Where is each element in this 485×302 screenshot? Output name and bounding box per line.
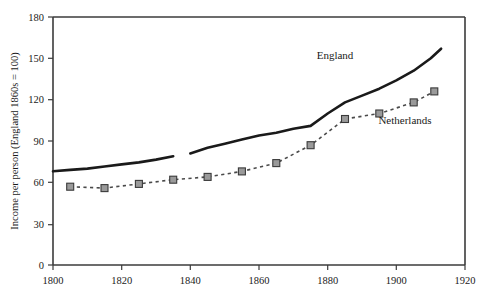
chart-background — [0, 0, 485, 302]
netherlands-marker-1845 — [204, 173, 211, 180]
netherlands-marker-1875 — [307, 142, 314, 149]
y-ticklabel-150: 150 — [28, 53, 44, 64]
netherlands-series-label: Netherlands — [378, 114, 431, 126]
y-ticklabel-120: 120 — [28, 94, 44, 105]
y-axis-title: Income per person (England 1860s = 100) — [9, 52, 21, 230]
x-ticklabel-1880: 1880 — [317, 275, 338, 286]
england-series-label: England — [317, 49, 354, 61]
netherlands-marker-1911 — [431, 88, 438, 95]
netherlands-marker-1865 — [273, 160, 280, 167]
x-ticklabel-1860: 1860 — [249, 275, 270, 286]
netherlands-marker-1815 — [101, 185, 108, 192]
netherlands-marker-1805 — [67, 183, 74, 190]
x-ticklabel-1800: 1800 — [43, 275, 64, 286]
x-ticklabel-1820: 1820 — [111, 275, 132, 286]
y-ticklabel-180: 180 — [28, 12, 44, 23]
y-ticklabel-90: 90 — [34, 136, 45, 147]
y-ticklabel-60: 60 — [34, 177, 45, 188]
x-ticklabel-1900: 1900 — [386, 275, 407, 286]
netherlands-marker-1885 — [342, 116, 349, 123]
y-ticklabel-30: 30 — [34, 219, 45, 230]
netherlands-marker-1835 — [170, 176, 177, 183]
netherlands-marker-1905 — [410, 99, 417, 106]
netherlands-marker-1825 — [135, 180, 142, 187]
x-ticklabel-1920: 1920 — [455, 275, 476, 286]
income-per-person-line-chart: 0 30 60 90 120 150 180 1800 1820 1840 18… — [0, 0, 485, 302]
chart-page: 0 30 60 90 120 150 180 1800 1820 1840 18… — [0, 0, 485, 302]
y-ticklabel-0: 0 — [39, 260, 44, 271]
x-ticklabel-1840: 1840 — [180, 275, 201, 286]
netherlands-marker-1855 — [238, 168, 245, 175]
